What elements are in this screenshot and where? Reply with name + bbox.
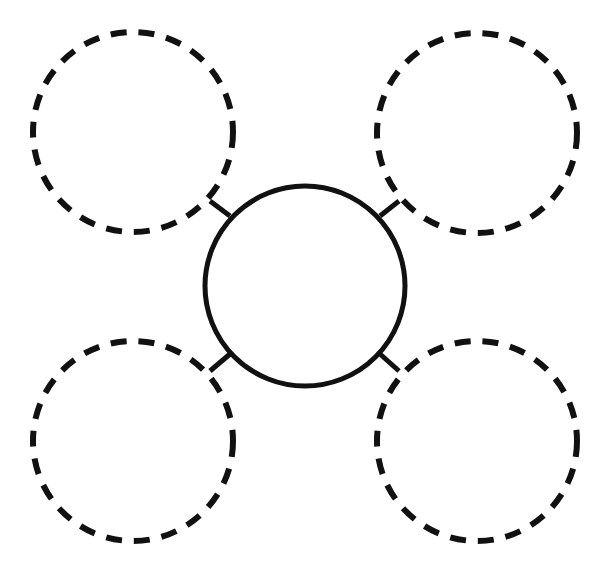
connector-line-bottom-right	[380, 354, 399, 371]
connector-line-bottom-left	[210, 354, 230, 371]
outer-node-bottom-left	[33, 341, 233, 541]
connector-line-top-right	[380, 201, 399, 216]
outer-node-top-left	[33, 32, 233, 232]
center-node-group	[205, 186, 405, 386]
center-node	[205, 186, 405, 386]
bubble-map-diagram	[0, 0, 598, 566]
outer-node-bottom-right	[377, 341, 577, 541]
connector-line-top-left	[210, 201, 230, 216]
outer-node-top-right	[377, 33, 577, 233]
